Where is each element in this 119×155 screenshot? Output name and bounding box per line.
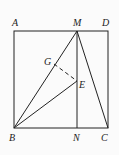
label-d: D [101,17,110,28]
label-n: N [72,132,81,143]
square-abcd [14,31,108,128]
segment-mb [14,31,77,128]
label-a: A [11,17,19,28]
segment-be [14,81,77,128]
label-c: C [101,132,108,143]
label-g: G [44,56,51,67]
segment-ge-dashed [54,64,77,81]
label-e: E [78,79,85,90]
geometry-diagram: A M D G E B N C [0,0,119,155]
label-m: M [72,17,82,28]
label-b: B [9,132,15,143]
